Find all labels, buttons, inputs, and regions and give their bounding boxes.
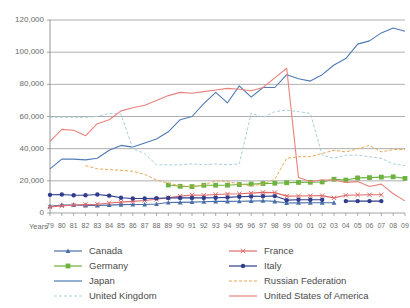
legend-label: Japan [89, 275, 115, 287]
data-point-marker [355, 176, 360, 181]
data-point-marker [241, 263, 245, 267]
y-axis-label: 100,000 [0, 47, 44, 56]
data-point-marker [379, 199, 383, 203]
x-axis-tick-labels: 7980818283848586878889909192939495969798… [0, 216, 410, 234]
data-point-marker [202, 196, 206, 200]
data-point-marker [107, 193, 111, 197]
data-point-marker [261, 194, 265, 198]
data-point-marker [367, 175, 372, 180]
data-point-marker [391, 174, 396, 179]
data-point-marker [296, 180, 301, 185]
legend-label: United States of America [264, 290, 369, 302]
data-point-marker [178, 184, 183, 189]
data-point-marker [379, 175, 384, 180]
series-united-kingdom [50, 110, 405, 166]
data-point-marker [142, 196, 146, 200]
data-point-marker [332, 177, 337, 182]
legend-item-united-states-of-america[interactable]: United States of America [228, 288, 369, 303]
data-point-marker [273, 194, 277, 198]
series-japan [50, 28, 405, 169]
series-germany [166, 174, 407, 189]
data-point-marker [66, 263, 71, 268]
legend-item-italy[interactable]: Italy [228, 258, 369, 273]
data-point-marker [119, 196, 123, 200]
data-point-marker [213, 183, 218, 188]
legend-label: United Kingdom [89, 290, 157, 302]
y-axis-label: 80,000 [0, 79, 44, 88]
data-point-marker [83, 193, 87, 197]
legend-label: Germany [89, 260, 128, 272]
data-point-marker [95, 192, 99, 196]
data-point-marker [403, 176, 408, 181]
legend-label: Italy [264, 260, 281, 272]
x-axis-label: 09 [398, 222, 410, 229]
data-point-marker [131, 196, 135, 200]
series-line [50, 28, 405, 169]
legend-label: France [264, 245, 294, 257]
legend-swatch-icon [228, 245, 258, 257]
legend-item-russian-federation[interactable]: Russian Federation [228, 273, 369, 288]
legend-swatch-icon [228, 290, 258, 302]
legend-swatch-icon [53, 275, 83, 287]
data-point-marker [320, 198, 324, 202]
data-point-marker [225, 195, 229, 199]
data-point-marker [284, 180, 289, 185]
data-point-marker [213, 196, 217, 200]
legend-swatch-icon [53, 290, 83, 302]
data-point-marker [154, 196, 158, 200]
legend-swatch-icon [53, 245, 83, 257]
data-point-marker [355, 199, 359, 203]
data-point-marker [284, 198, 288, 202]
data-point-marker [71, 193, 75, 197]
legend-label: Canada [89, 245, 122, 257]
data-point-marker [344, 199, 348, 203]
legend-item-japan[interactable]: Japan [53, 273, 157, 288]
y-axis-label: 60,000 [0, 112, 44, 121]
data-point-marker [225, 183, 230, 188]
legend-item-united-kingdom[interactable]: United Kingdom [53, 288, 157, 303]
data-point-marker [308, 198, 312, 202]
legend-column-left: CanadaGermanyJapanUnited Kingdom [53, 243, 157, 303]
y-axis-label: 120,000 [0, 15, 44, 24]
legend-item-germany[interactable]: Germany [53, 258, 157, 273]
data-point-marker [296, 198, 300, 202]
data-point-marker [249, 194, 253, 198]
legend-column-right: FranceItalyRussian FederationUnited Stat… [228, 243, 369, 303]
chart-plot-region: 020,00040,00060,00080,000100,000120,000 [0, 0, 410, 240]
chart-figure: 020,00040,00060,00080,000100,000120,000 … [0, 0, 410, 308]
data-point-marker [48, 193, 52, 197]
data-point-marker [190, 196, 194, 200]
legend-item-france[interactable]: France [228, 243, 369, 258]
data-point-marker [237, 195, 241, 199]
data-point-marker [367, 199, 371, 203]
chart-canvas [0, 0, 410, 240]
legend-swatch-icon [53, 260, 83, 272]
y-axis-label: 20,000 [0, 176, 44, 185]
data-point-marker [178, 196, 182, 200]
data-point-marker [60, 192, 64, 196]
chart-legend: CanadaGermanyJapanUnited Kingdom FranceI… [0, 243, 410, 308]
series-line [50, 110, 405, 166]
legend-swatch-icon [228, 275, 258, 287]
data-point-marker [166, 196, 170, 200]
legend-item-canada[interactable]: Canada [53, 243, 157, 258]
legend-label: Russian Federation [264, 275, 346, 287]
data-point-marker [272, 181, 277, 186]
legend-swatch-icon [228, 260, 258, 272]
y-axis-label: 40,000 [0, 144, 44, 153]
